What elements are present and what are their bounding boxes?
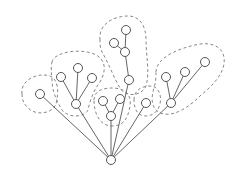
node-c (125, 76, 134, 85)
node-root (107, 156, 116, 165)
node-c3 (122, 26, 131, 35)
node-d2 (116, 95, 125, 104)
node-d (107, 112, 116, 121)
node-d1 (99, 97, 108, 106)
node-b3 (88, 74, 97, 83)
node-f (167, 99, 176, 108)
node-b2 (74, 64, 83, 73)
node-e (142, 99, 151, 108)
node-c1 (121, 48, 130, 57)
edge-f-f2 (171, 72, 185, 103)
node-group (36, 26, 210, 165)
node-f3 (201, 58, 210, 67)
node-f1 (162, 73, 171, 82)
node-c2 (110, 39, 119, 48)
node-b (72, 100, 81, 109)
node-b1 (57, 73, 66, 82)
edge-b-b2 (76, 68, 78, 104)
tree-diagram (0, 0, 236, 177)
node-a (36, 90, 45, 99)
node-f2 (181, 68, 190, 77)
